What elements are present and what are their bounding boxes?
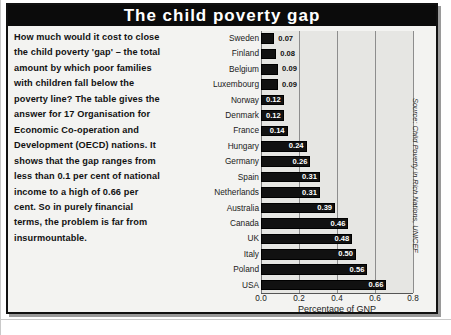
country-label: Spain: [238, 170, 259, 185]
source-credit: Source: Child Poverty in Rich Nations, U…: [408, 98, 420, 268]
country-label: Hungary: [228, 139, 259, 154]
intro-copy-text: How much would it cost to close the chil…: [14, 30, 162, 246]
bar-value-label: 0.24: [289, 140, 304, 152]
infographic-figure: The child poverty gap How much would it …: [0, 0, 451, 335]
country-label: Canada: [230, 216, 259, 231]
bar-value-label: 0.09: [282, 79, 297, 91]
page-rule-left: [0, 0, 1, 335]
country-label: Sweden: [229, 31, 259, 46]
page-rule-bottom: [0, 319, 451, 320]
bar-row: Spain0.31: [166, 170, 413, 185]
bar: [261, 64, 278, 75]
bar-value-label: 0.50: [338, 248, 353, 260]
x-tick-label: 0.0: [255, 294, 266, 303]
bar: [261, 280, 386, 291]
bar-row: Poland0.56: [166, 262, 413, 277]
bar-value-label: 0.31: [302, 171, 317, 183]
bar-row: Hungary0.24: [166, 139, 413, 154]
bar-value-label: 0.26: [293, 156, 308, 168]
bar-row: Italy0.50: [166, 247, 413, 262]
bar-value-label: 0.48: [334, 233, 349, 245]
bar-row: Germany0.26: [166, 154, 413, 169]
bar-value-label: 0.31: [302, 187, 317, 199]
bar: [261, 49, 276, 60]
bar-row: Australia0.39: [166, 201, 413, 216]
country-label: Italy: [244, 247, 259, 262]
bar-row: Belgium0.09: [166, 62, 413, 77]
bar-value-label: 0.12: [266, 110, 281, 122]
x-tick-label: 0.4: [331, 294, 342, 303]
country-label: Australia: [227, 201, 259, 216]
bar-value-label: 0.46: [331, 218, 346, 230]
country-label: Netherlands: [214, 185, 259, 200]
bar-value-label: 0.12: [266, 94, 281, 106]
bar-rows: Sweden0.07Finland0.08Belgium0.09Luxembou…: [166, 31, 413, 293]
country-label: Belgium: [229, 62, 259, 77]
country-label: Finland: [232, 46, 259, 61]
bar-value-label: 0.08: [280, 48, 295, 60]
bar: [261, 33, 274, 44]
country-label: Luxembourg: [213, 77, 259, 92]
country-label: Norway: [231, 93, 259, 108]
bar: [261, 79, 278, 90]
country-label: UK: [247, 231, 259, 246]
bar-row: Denmark0.12: [166, 108, 413, 123]
bar-chart: Sweden0.07Finland0.08Belgium0.09Luxembou…: [166, 28, 428, 312]
bar-row: Sweden0.07: [166, 31, 413, 46]
bar-row: Canada0.46: [166, 216, 413, 231]
bar-row: Norway0.12: [166, 93, 413, 108]
bar-row: Netherlands0.31: [166, 185, 413, 200]
country-label: USA: [242, 278, 259, 293]
bar-value-label: 0.14: [270, 125, 285, 137]
x-tick-label: 0.2: [293, 294, 304, 303]
bar-value-label: 0.07: [278, 33, 293, 45]
x-tick-label: 0.8: [407, 294, 418, 303]
bar-value-label: 0.66: [369, 279, 384, 291]
bar-row: USA0.66: [166, 278, 413, 293]
country-label: Poland: [233, 262, 259, 277]
bar-row: Finland0.08: [166, 46, 413, 61]
x-tick-label: 0.6: [369, 294, 380, 303]
x-axis-label: Percentage of GNP: [261, 304, 413, 314]
bar-value-label: 0.39: [317, 202, 332, 214]
country-label: France: [233, 123, 259, 138]
bar-row: UK0.48: [166, 231, 413, 246]
bar-row: Luxembourg0.09: [166, 77, 413, 92]
bar-value-label: 0.09: [282, 63, 297, 75]
intro-copy: How much would it cost to close the chil…: [14, 30, 162, 310]
page-title: The child poverty gap: [124, 7, 321, 25]
bar-row: France0.14: [166, 123, 413, 138]
bar-value-label: 0.56: [350, 264, 365, 276]
country-label: Germany: [225, 154, 259, 169]
figure-title-bar: The child poverty gap: [8, 5, 436, 26]
country-label: Denmark: [225, 108, 259, 123]
